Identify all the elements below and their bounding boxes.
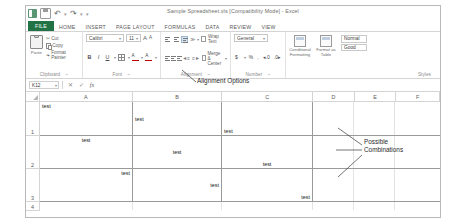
annotation-possible-combinations-line1: Possible <box>364 138 403 146</box>
annotation-possible-combinations-line2: Combinations <box>364 146 403 154</box>
annotation-leader-lines <box>0 0 454 224</box>
annotation-possible-combinations: Possible Combinations <box>364 138 403 153</box>
annotation-alignment-options: Alignment Options <box>197 77 249 85</box>
